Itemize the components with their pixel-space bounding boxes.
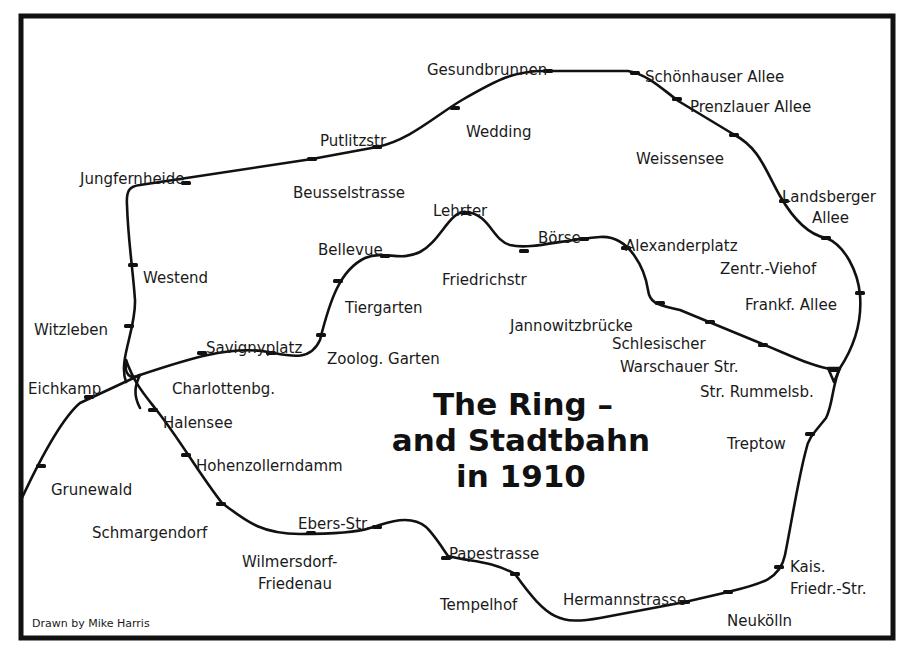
stadtbahn-station-label: Grunewald	[51, 481, 132, 499]
ring-station-label: Halensee	[163, 414, 233, 432]
ring-station-label: Kais.	[790, 558, 826, 576]
stadtbahn-station-label: Friedrichstr	[442, 271, 527, 289]
ring-station-label: Treptow	[726, 435, 786, 453]
ring-station-label: Tempelhof	[439, 596, 518, 614]
ring-station-label: Str. Rummelsb.	[700, 383, 814, 401]
station-marker-icon	[510, 572, 520, 576]
ring-station-label: Beusselstrasse	[293, 184, 405, 202]
station-marker-icon	[805, 432, 815, 436]
ring-station-label: Papestrasse	[449, 545, 539, 563]
ring-station-label: Hohenzollerndamm	[196, 457, 343, 475]
stadtbahn-station-label: Charlottenbg.	[172, 380, 275, 398]
station-marker-icon	[519, 249, 529, 253]
stadtbahn-station-label: Tiergarten	[344, 299, 423, 317]
station-marker-icon	[705, 320, 715, 324]
station-marker-icon	[758, 343, 768, 347]
ring-station-label: Putlitzstr	[320, 132, 387, 150]
stadtbahn-station-label: Savignyplatz	[206, 339, 302, 357]
ring-station-label: Friedr.-Str.	[790, 580, 867, 598]
title-line-1: The Ring –	[433, 386, 613, 422]
station-marker-icon	[372, 525, 382, 529]
ring-station-label: Zentr.-Viehof	[720, 260, 817, 278]
station-marker-icon	[672, 97, 682, 101]
station-marker-icon	[821, 236, 831, 240]
title-line-3: in 1910	[456, 458, 586, 494]
ring-station-label: Wilmersdorf-	[242, 553, 337, 571]
station-marker-icon	[655, 301, 665, 305]
ring-station-label: Neukölln	[727, 612, 792, 630]
ring-station-label: Witzleben	[34, 321, 108, 339]
ring-station-label: Westend	[143, 269, 208, 287]
ring-station-label: Schönhauser Allee	[645, 68, 784, 86]
berlin-ring-map: GesundbrunnenSchönhauser AlleePrenzlauer…	[0, 0, 908, 657]
station-marker-icon	[148, 408, 158, 412]
ring-station-label: Jungfernheide	[79, 170, 185, 188]
station-marker-icon	[124, 324, 134, 328]
stadtbahn-station-label: Lehrter	[433, 202, 488, 220]
stadtbahn-station-label: Jannowitzbrücke	[509, 317, 633, 335]
ring-station-label: Hermannstrasse	[563, 591, 686, 609]
station-marker-icon	[450, 106, 460, 110]
stadtbahn-station-label: Börse	[538, 229, 581, 247]
station-marker-icon	[181, 453, 191, 457]
ring-station-label: Landsberger	[782, 188, 877, 206]
stadtbahn-station-label: Warschauer Str.	[620, 358, 739, 376]
map-credit: Drawn by Mike Harris	[32, 617, 150, 630]
station-marker-icon	[333, 279, 343, 283]
title-line-2: and Stadtbahn	[392, 422, 650, 458]
stadtbahn-station-label: Eichkamp	[28, 380, 101, 398]
stadtbahn-station-label: Alexanderplatz	[625, 237, 738, 255]
map-title: The Ring – and Stadtbahn in 1910	[392, 386, 650, 494]
ring-station-label: Allee	[812, 209, 849, 227]
station-marker-icon	[36, 464, 46, 468]
stadtbahn-station-label: Zoolog. Garten	[327, 350, 440, 368]
ring-station-label: Frankf. Allee	[745, 296, 837, 314]
ring-station-label: Weissensee	[636, 150, 724, 168]
ring-station-label: Friedenau	[258, 575, 332, 593]
station-marker-icon	[830, 368, 840, 372]
station-marker-icon	[774, 565, 784, 569]
stadtbahn-station-label: Bellevue	[318, 241, 383, 259]
station-marker-icon	[316, 333, 326, 337]
station-marker-icon	[855, 291, 865, 295]
station-marker-icon	[128, 263, 138, 267]
ring-station-label: Prenzlauer Allee	[690, 98, 811, 116]
station-marker-icon	[630, 71, 640, 75]
ring-station-label: Schmargendorf	[92, 524, 208, 542]
station-marker-icon	[723, 590, 733, 594]
ring-station-label: Gesundbrunnen	[427, 61, 547, 79]
ring-station-label: Wedding	[466, 123, 531, 141]
station-marker-icon	[729, 133, 739, 137]
station-marker-icon	[216, 502, 226, 506]
ring-station-label: Ebers-Str.	[298, 515, 371, 533]
station-marker-icon	[307, 157, 317, 161]
stadtbahn-station-label: Schlesischer	[612, 335, 706, 353]
